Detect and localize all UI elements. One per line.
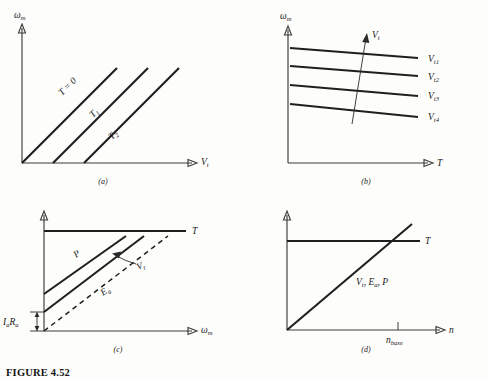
panel-a-label-t2: T2 bbox=[106, 128, 120, 142]
panel-d-label-vt-ea-p: Vt, Ea, P bbox=[356, 277, 388, 288]
figure-canvas: ωm Vt T = 0 T1 T2 (a) bbox=[0, 0, 488, 379]
panel-a: ωm Vt T = 0 T1 T2 (a) bbox=[14, 10, 209, 186]
panel-d-axes bbox=[284, 211, 446, 334]
panel-d-axis-labels: n bbox=[449, 325, 454, 335]
panel-a-axes bbox=[19, 24, 198, 167]
panel-a-curve-labels: T = 0 T1 T2 bbox=[56, 75, 120, 142]
panel-a-y-axis-label: ωm bbox=[14, 10, 26, 21]
panel-a-label-t0: T = 0 bbox=[56, 75, 78, 97]
panel-b-label-vt4: Vt4 bbox=[428, 112, 440, 123]
panel-b-vt-arrow-head bbox=[362, 33, 369, 43]
panel-b-label-vt3: Vt3 bbox=[428, 91, 440, 102]
panel-b-curve-vt3 bbox=[290, 85, 418, 96]
panel-c-iara-label: IaRa bbox=[2, 317, 19, 328]
panel-b-x-axis-label: T bbox=[437, 158, 443, 168]
panel-c-curve-vt bbox=[44, 236, 144, 312]
panel-b-axis-labels: ωm T bbox=[280, 11, 443, 168]
panel-d-label-torque: T bbox=[425, 236, 431, 246]
panel-b-curve-labels: Vt1 Vt2 Vt3 Vt4 bbox=[428, 54, 440, 123]
figure-caption: FIGURE 4.52 bbox=[6, 367, 70, 378]
panel-b-curve-vt2 bbox=[290, 66, 418, 76]
panel-c-label-ea: Ea bbox=[98, 284, 113, 299]
panel-c-x-axis-label: ωm bbox=[201, 325, 213, 336]
panel-d-ticks: nbase bbox=[386, 322, 403, 346]
figure-container: ωm Vt T = 0 T1 T2 (a) bbox=[0, 0, 488, 379]
panel-a-tag: (a) bbox=[98, 177, 108, 186]
panel-d-x-axis-label: n bbox=[449, 325, 454, 335]
panel-b-label-vt1: Vt1 bbox=[428, 54, 439, 65]
panel-c-tag: (c) bbox=[114, 345, 123, 354]
panel-c-vt-arrow-group: Vt bbox=[112, 252, 146, 273]
panel-c-axes bbox=[41, 211, 198, 335]
panel-c-label-power: P bbox=[71, 248, 82, 260]
panel-c: IaRa Vt P Ea T ωm (c) bbox=[2, 211, 213, 354]
panel-b-tag: (b) bbox=[361, 177, 371, 186]
panel-b-curves bbox=[290, 48, 418, 117]
panel-c-iara-marker: IaRa bbox=[2, 312, 44, 332]
panel-c-curves bbox=[44, 231, 186, 331]
panel-d: nbase T Vt, Ea, P n (d) bbox=[284, 211, 455, 354]
panel-a-x-axis-label: Vt bbox=[201, 157, 209, 168]
panel-b-vt-arrow-label: Vt bbox=[372, 30, 380, 41]
panel-d-curve-vt-ea-p bbox=[287, 224, 412, 330]
panel-d-tick-label-nbase: nbase bbox=[386, 335, 403, 346]
panel-d-tag: (d) bbox=[361, 345, 371, 354]
panel-c-axis-labels: ωm bbox=[201, 325, 213, 336]
panel-c-label-torque: T bbox=[192, 226, 198, 236]
panel-b: Vt Vt1 Vt2 Vt3 Vt4 ωm T (b) bbox=[280, 11, 443, 186]
panel-d-curves bbox=[287, 224, 420, 330]
panel-b-y-axis-label: ωm bbox=[280, 11, 292, 22]
panel-a-axis-labels: ωm Vt bbox=[14, 10, 209, 168]
panel-c-vt-label: Vt bbox=[135, 260, 146, 273]
panel-b-label-vt2: Vt2 bbox=[428, 72, 440, 83]
panel-a-curves bbox=[22, 68, 179, 163]
panel-b-curve-vt1 bbox=[290, 48, 418, 58]
panel-c-curve-power bbox=[44, 236, 126, 294]
